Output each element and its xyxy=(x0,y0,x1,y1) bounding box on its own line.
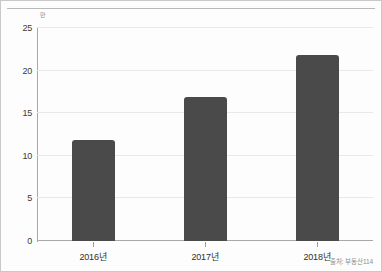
bar xyxy=(296,55,339,241)
y-tick-label-0: 0 xyxy=(1,236,32,246)
bar-chart-figure: 만 0510152025 2016년2017년2018년 출처: 부동산114 xyxy=(0,0,382,272)
x-tick xyxy=(93,242,94,247)
gridline-25 xyxy=(37,27,373,28)
y-tick-label-5: 5 xyxy=(1,193,32,203)
y-tick-label-10: 10 xyxy=(1,151,32,161)
y-tick-label-25: 25 xyxy=(1,23,32,33)
y-tick-label-20: 20 xyxy=(1,66,32,76)
top-divider xyxy=(7,8,375,9)
x-tick xyxy=(205,242,206,247)
plot-area xyxy=(37,28,373,241)
x-tick xyxy=(317,242,318,247)
category-label-2: 2018년 xyxy=(303,250,330,263)
category-label-0: 2016년 xyxy=(79,250,106,263)
source-attribution: 출처: 부동산114 xyxy=(330,256,373,266)
bar xyxy=(72,140,115,241)
bar xyxy=(184,97,227,241)
y-tick-label-15: 15 xyxy=(1,108,32,118)
category-label-1: 2017년 xyxy=(191,250,218,263)
y-axis-unit-label: 만 xyxy=(40,12,46,18)
